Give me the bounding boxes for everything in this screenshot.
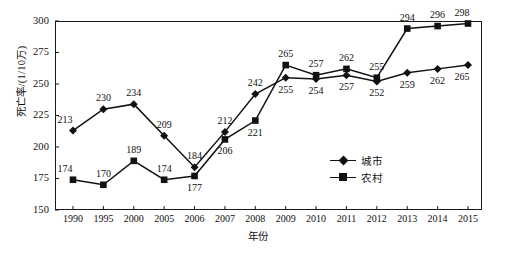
- data-point-label: 242: [240, 78, 270, 88]
- plot-area-frame: [55, 21, 482, 210]
- data-point-label: 177: [180, 183, 210, 193]
- data-point-label: 262: [331, 53, 361, 63]
- data-point-label: 257: [331, 82, 361, 92]
- legend-item-rural: 农村: [330, 169, 383, 186]
- x-tick-label: 2015: [445, 214, 491, 224]
- y-tick-label: 175: [17, 173, 49, 184]
- data-point-label: 234: [119, 88, 149, 98]
- chart-legend: 城市 农村: [330, 152, 383, 186]
- legend-item-city: 城市: [330, 152, 383, 169]
- data-point-label: 265: [447, 72, 477, 82]
- data-point-label: 252: [362, 88, 392, 98]
- data-point-label: 174: [149, 164, 179, 174]
- data-point-label: 255: [271, 85, 301, 95]
- y-tick-label: 225: [17, 110, 49, 121]
- y-tick-label: 200: [17, 142, 49, 153]
- data-point-label: 230: [88, 93, 118, 103]
- data-point-label: 209: [149, 120, 179, 130]
- data-point-label: 257: [301, 59, 331, 69]
- data-point-label: 294: [392, 13, 422, 23]
- y-tick-label: 250: [17, 79, 49, 90]
- diamond-marker-icon: [330, 155, 356, 167]
- data-point-label: 254: [301, 86, 331, 96]
- y-tick-label: 275: [17, 47, 49, 58]
- data-point-label: 184: [180, 151, 210, 161]
- chart-figure: 死亡率/(1/10万) 年份 150175200225250275300 199…: [0, 0, 516, 267]
- data-point-label: 174: [50, 164, 80, 174]
- legend-label-city: 城市: [361, 153, 383, 168]
- square-marker-icon: [330, 172, 356, 184]
- y-tick-label: 300: [17, 16, 49, 27]
- data-point-label: 212: [210, 116, 240, 126]
- data-point-label: 213: [50, 115, 80, 125]
- data-point-label: 298: [447, 8, 477, 18]
- data-point-label: 255: [362, 62, 392, 72]
- legend-label-rural: 农村: [361, 170, 383, 185]
- data-point-label: 170: [88, 169, 118, 179]
- data-point-label: 221: [240, 128, 270, 138]
- x-axis-title: 年份: [0, 228, 516, 243]
- y-tick-label: 150: [17, 205, 49, 216]
- data-point-label: 206: [210, 146, 240, 156]
- data-point-label: 265: [271, 49, 301, 59]
- data-point-label: 189: [119, 145, 149, 155]
- data-point-label: 259: [392, 80, 422, 90]
